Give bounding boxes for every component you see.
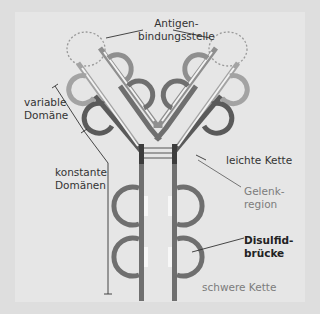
left-arm <box>69 48 160 152</box>
label-hinge-line2: region <box>244 198 285 211</box>
right-arm <box>156 48 247 152</box>
stem <box>114 164 202 301</box>
label-hinge-region: Gelenk- region <box>244 185 285 211</box>
label-antigen-line2: bindungsstelle <box>138 30 215 43</box>
label-antigen-binding-site: Antigen- bindungsstelle <box>138 17 215 43</box>
label-hinge-line1: Gelenk- <box>244 185 285 198</box>
label-light-chain: leichte Kette <box>226 154 292 167</box>
label-disulfide-bridge: Disulfid- brücke <box>244 234 293 260</box>
label-disulfide-line1: Disulfid- <box>244 234 293 247</box>
label-variable-domain: variable Domäne <box>24 96 68 122</box>
label-variable-line2: Domäne <box>24 109 68 122</box>
label-constant-domains: konstante Domänen <box>55 166 107 192</box>
label-antigen-line1: Antigen- <box>138 17 215 30</box>
constant-domain-bracket <box>84 131 112 294</box>
label-disulfide-line2: brücke <box>244 247 293 260</box>
hinge-region <box>139 144 177 164</box>
label-constant-line1: konstante <box>55 166 107 179</box>
label-heavy-chain: schwere Kette <box>202 281 276 294</box>
label-constant-line2: Domänen <box>55 179 107 192</box>
label-variable-line1: variable <box>24 96 68 109</box>
